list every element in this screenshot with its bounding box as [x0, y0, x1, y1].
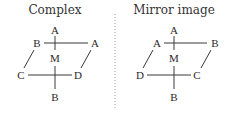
bond-left-diagonal [143, 50, 153, 68]
label-bottom: B [170, 91, 177, 103]
label-center: M [169, 52, 179, 64]
label-upper-left: A [153, 37, 161, 49]
bond-right-diagonal [201, 50, 211, 68]
panel-mirror-image: Mirror image A A B M D C B [133, 3, 218, 103]
panel-complex: Complex A B A M C D B [17, 3, 99, 103]
label-bottom: B [51, 91, 58, 103]
label-upper-right: B [211, 37, 218, 49]
label-lower-left: D [136, 69, 144, 81]
mirror-image-diagram: Complex A B A M C D B Mirror image A A B… [0, 0, 230, 113]
label-upper-right: A [91, 37, 99, 49]
label-upper-left: B [33, 37, 40, 49]
label-top: A [51, 24, 59, 36]
label-top: A [170, 24, 178, 36]
label-lower-left: C [17, 69, 24, 81]
label-center: M [50, 52, 60, 64]
panel-title: Complex [28, 3, 81, 17]
label-lower-right: C [193, 69, 200, 81]
label-lower-right: D [74, 69, 82, 81]
panel-title: Mirror image [133, 3, 215, 17]
bond-left-diagonal [24, 50, 34, 68]
bond-right-diagonal [81, 50, 91, 68]
